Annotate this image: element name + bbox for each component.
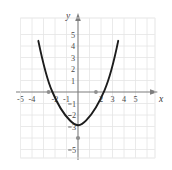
x-tick-3: 3 bbox=[110, 95, 114, 104]
y-tick--5: 5 bbox=[72, 146, 76, 155]
x-tick--4: -4 bbox=[29, 95, 36, 104]
y-intercept-marker bbox=[76, 136, 80, 140]
plot-frame bbox=[21, 18, 156, 158]
graph-canvas: y x -5 -4 -2 -1 2 3 4 5 5 4 3 2 1 1 2 3 … bbox=[0, 0, 172, 170]
y-tick-3: 3 bbox=[71, 54, 75, 63]
coordinate-graph-figure: y x -5 -4 -2 -1 2 3 4 5 5 4 3 2 1 1 2 3 … bbox=[0, 0, 172, 170]
x-tick-labels: -5 -4 -2 -1 2 3 4 5 bbox=[17, 95, 137, 104]
x-axis-label: x bbox=[158, 94, 164, 104]
x-tick-4: 4 bbox=[122, 95, 126, 104]
x-tick--1: -1 bbox=[63, 95, 70, 104]
x-intercept-left-marker bbox=[47, 90, 51, 94]
y-axis-label: y bbox=[65, 11, 71, 21]
y-tick-5: 5 bbox=[71, 31, 75, 40]
x-axis-arrow bbox=[150, 89, 158, 95]
grid-lines bbox=[21, 18, 156, 158]
y-tick-2: 2 bbox=[71, 65, 75, 74]
y-axis-arrow bbox=[75, 13, 81, 21]
y-tick--1: 1 bbox=[72, 100, 76, 109]
x-intercept-right-marker bbox=[94, 90, 98, 94]
y-tick-1: 1 bbox=[71, 77, 75, 86]
x-tick-5: 5 bbox=[133, 95, 137, 104]
y-tick-4: 4 bbox=[71, 42, 75, 51]
y-tick--2: 2 bbox=[72, 111, 76, 120]
